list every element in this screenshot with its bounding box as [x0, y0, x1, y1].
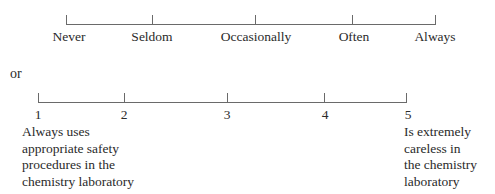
right-anchor-description: Is extremely careless in the chemistry l…: [404, 124, 477, 190]
or-connector: or: [10, 66, 22, 82]
number-1: 1: [35, 107, 42, 123]
label-always: Always: [414, 29, 455, 45]
label-occasionally: Occasionally: [221, 29, 291, 45]
tick-4: [324, 93, 325, 103]
number-4: 4: [322, 107, 329, 123]
tick-1: [38, 93, 39, 103]
numeric-scale-line: [38, 102, 407, 103]
label-seldom: Seldom: [131, 29, 172, 45]
number-3: 3: [224, 107, 231, 123]
tick-always: [435, 15, 436, 25]
tick-seldom: [152, 15, 153, 25]
number-5: 5: [405, 107, 412, 123]
number-2: 2: [121, 107, 128, 123]
label-often: Often: [339, 29, 370, 45]
tick-5: [406, 93, 407, 103]
tick-never: [66, 15, 67, 25]
left-anchor-description: Always uses appropriate safety procedure…: [22, 124, 134, 190]
tick-occasionally: [255, 15, 256, 25]
label-never: Never: [53, 29, 86, 45]
tick-often: [352, 15, 353, 25]
frequency-scale-line: [66, 24, 436, 25]
tick-2: [124, 93, 125, 103]
tick-3: [227, 93, 228, 103]
